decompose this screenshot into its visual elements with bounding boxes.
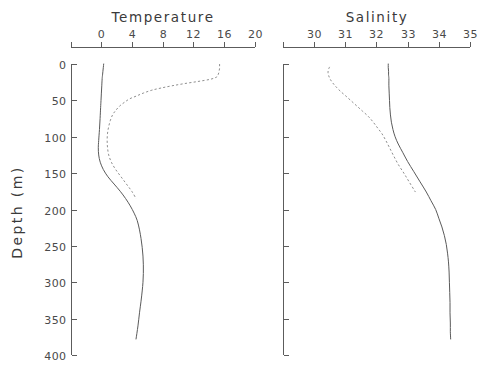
sal-xticks-tick-label: 30 [307, 28, 322, 41]
sal-xticks-tick-label: 33 [401, 28, 416, 41]
temperature-panel-title: Temperature [110, 9, 214, 25]
temperature-panel: Temperature 048121620 050100150200250300… [44, 9, 263, 363]
temp-xticks-tick-label: 12 [186, 28, 201, 41]
depth-axis-title: Depth (m) [9, 165, 25, 258]
temp-yticks-tick-label: 200 [44, 205, 66, 218]
salinity-panel-title: Salinity [346, 9, 409, 25]
temp-xticks-tick-label: 8 [160, 28, 167, 41]
salinity-x-axis: 303132333435 [283, 28, 478, 47]
temp-yticks-tick-label: 300 [44, 277, 66, 290]
sal-xticks-tick-label: 34 [432, 28, 447, 41]
salinity-depth-axis [284, 64, 289, 356]
temp-yticks-tick-label: 50 [52, 95, 67, 108]
temp-yticks-tick-label: 250 [44, 241, 66, 254]
oceanographic-profile-figure: Depth (m) Temperature 048121620 05010015… [0, 0, 487, 380]
temp-yticks-tick-label: 400 [44, 350, 66, 363]
temperature-x-axis: 048121620 [71, 28, 263, 47]
sal-xticks-tick-label: 35 [463, 28, 478, 41]
temp-xticks-tick-label: 20 [248, 28, 263, 41]
sal-xticks-tick-label: 32 [369, 28, 384, 41]
salinity-summer-curve [328, 67, 415, 192]
sal-xticks-tick-label: 31 [338, 28, 353, 41]
temp-yticks-tick-label: 100 [44, 132, 66, 145]
salinity-winter-curve [388, 64, 450, 339]
temp-xticks-tick-label: 0 [98, 28, 105, 41]
profile-plot-svg: Depth (m) Temperature 048121620 05010015… [0, 0, 487, 380]
temp-yticks-tick-label: 350 [44, 314, 66, 327]
temp-yticks-tick-label: 0 [59, 59, 66, 72]
temp-xticks-tick-label: 16 [217, 28, 232, 41]
temperature-summer-curve [107, 64, 219, 199]
temp-xticks-tick-label: 4 [129, 28, 136, 41]
temperature-depth-axis: 050100150200250300350400 [44, 59, 76, 363]
temp-yticks-tick-label: 150 [44, 168, 66, 181]
salinity-panel: Salinity 303132333435 [283, 9, 478, 356]
